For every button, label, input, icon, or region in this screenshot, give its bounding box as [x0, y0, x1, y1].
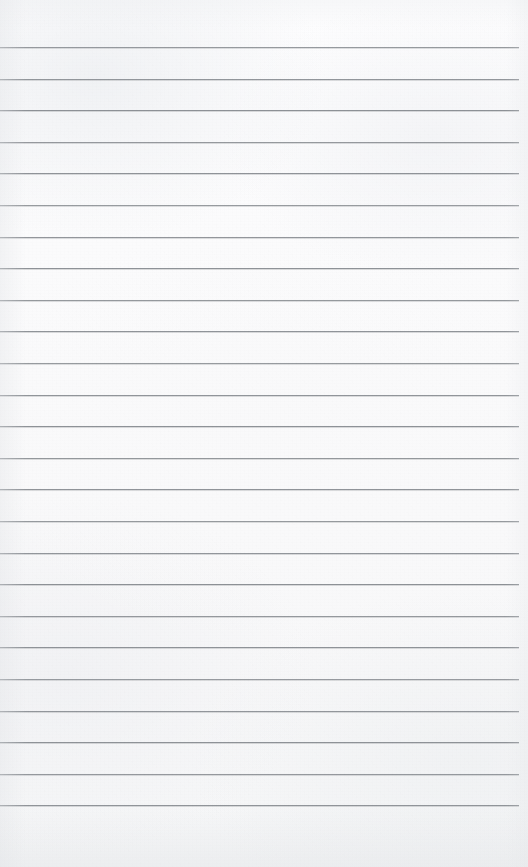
scanned-page [0, 0, 528, 867]
writing-area[interactable] [0, 47, 519, 819]
